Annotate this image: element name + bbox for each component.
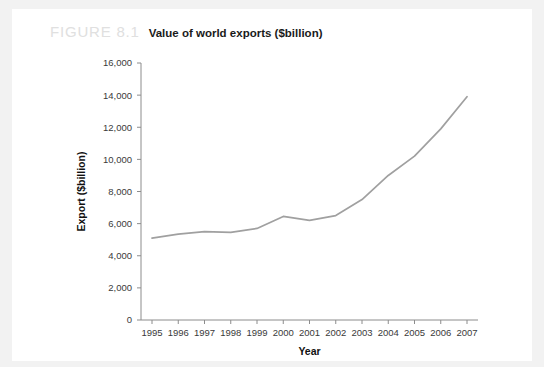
x-tick-label: 2004	[378, 327, 399, 338]
y-tick-label: 14,000	[103, 90, 132, 101]
x-tick-label: 1995	[141, 327, 162, 338]
x-tick-label: 1996	[168, 327, 189, 338]
y-tick-label: 0	[127, 314, 132, 325]
exports-series-line	[152, 97, 467, 238]
y-tick-label: 2,000	[108, 282, 132, 293]
x-axis-tick-labels: 1995199619971998199920002001200220032004…	[141, 327, 477, 338]
line-chart: 02,0004,0006,0008,00010,00012,00014,0001…	[0, 0, 544, 367]
x-tick-label: 2000	[273, 327, 294, 338]
chart-plot-area: 02,0004,0006,0008,00010,00012,00014,0001…	[0, 0, 544, 367]
x-axis-tick-marks	[152, 320, 467, 324]
x-axis-title: Year	[298, 345, 320, 357]
y-tick-label: 12,000	[103, 122, 132, 133]
x-tick-label: 1997	[194, 327, 215, 338]
y-tick-label: 8,000	[108, 186, 132, 197]
x-tick-label: 2005	[404, 327, 425, 338]
x-tick-label: 2007	[456, 327, 477, 338]
y-axis-tick-marks	[137, 63, 141, 320]
x-tick-label: 2001	[299, 327, 320, 338]
x-tick-label: 1999	[246, 327, 267, 338]
y-axis-title: Export ($billion)	[75, 152, 87, 232]
x-tick-label: 2006	[430, 327, 451, 338]
x-tick-label: 1998	[220, 327, 241, 338]
x-tick-label: 2003	[351, 327, 372, 338]
x-tick-label: 2002	[325, 327, 346, 338]
y-tick-label: 10,000	[103, 154, 132, 165]
y-tick-label: 16,000	[103, 57, 132, 68]
y-tick-label: 6,000	[108, 218, 132, 229]
y-axis-tick-labels: 02,0004,0006,0008,00010,00012,00014,0001…	[103, 57, 132, 325]
y-tick-label: 4,000	[108, 250, 132, 261]
